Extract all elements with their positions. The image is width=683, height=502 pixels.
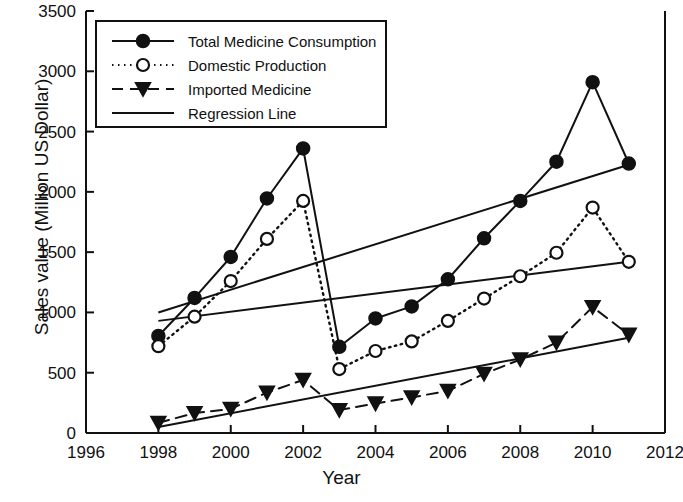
data-point-filled-triangle <box>621 328 636 342</box>
x-tick-label: 2012 <box>646 443 683 462</box>
data-point-filled-triangle <box>259 386 274 400</box>
data-point-open-circle <box>297 195 309 207</box>
data-point-filled-triangle <box>549 336 564 350</box>
legend-label: Regression Line <box>188 105 296 122</box>
data-point-filled-circle <box>405 300 418 313</box>
series-markers-group <box>151 76 636 430</box>
x-tick-label: 2010 <box>574 443 612 462</box>
data-point-open-circle <box>333 363 345 375</box>
x-tick-label: 2000 <box>212 443 250 462</box>
data-point-filled-triangle <box>404 391 419 405</box>
x-tick-label: 2002 <box>284 443 322 462</box>
data-point-open-circle <box>189 311 201 323</box>
data-point-open-circle <box>587 202 599 214</box>
data-point-filled-circle <box>188 291 201 304</box>
x-axis-ticks: 199619982000200220042006200820102012 <box>67 425 683 462</box>
data-point-open-circle <box>550 247 562 259</box>
data-point-filled-circle <box>224 250 237 263</box>
y-tick-label: 3500 <box>38 2 76 21</box>
data-point-filled-triangle <box>440 384 455 398</box>
data-point-open-circle <box>514 270 526 282</box>
y-tick-label: 0 <box>67 424 76 443</box>
data-point-open-circle <box>478 293 490 305</box>
x-tick-label: 1998 <box>139 443 177 462</box>
x-tick-label: 2008 <box>501 443 539 462</box>
data-point-open-circle <box>137 59 149 71</box>
y-axis-title: Sales value (Million US Dollar) <box>31 47 53 367</box>
data-point-filled-circle <box>550 155 563 168</box>
data-point-open-circle <box>152 340 164 352</box>
x-axis-title: Year <box>0 467 683 489</box>
data-point-open-circle <box>442 315 454 327</box>
regression-line <box>158 165 628 313</box>
legend-item: Domestic Production <box>112 57 326 74</box>
x-tick-label: 2004 <box>357 443 395 462</box>
data-point-open-circle <box>623 256 635 268</box>
data-point-filled-circle <box>622 157 635 170</box>
line-chart-canvas: 0500100015002000250030003500 19961998200… <box>0 0 683 502</box>
regression-lines-group <box>158 165 628 427</box>
legend-label: Total Medicine Consumption <box>188 33 376 50</box>
data-point-filled-triangle <box>368 397 383 411</box>
chart-legend: Total Medicine ConsumptionDomestic Produ… <box>96 21 386 127</box>
x-tick-label: 1996 <box>67 443 105 462</box>
data-point-filled-triangle <box>332 404 347 418</box>
data-point-open-circle <box>225 275 237 287</box>
data-point-open-circle <box>261 233 273 245</box>
data-point-filled-circle <box>333 340 346 353</box>
data-point-open-circle <box>370 345 382 357</box>
data-point-open-circle <box>406 335 418 347</box>
chart-figure: 0500100015002000250030003500 19961998200… <box>0 0 683 502</box>
legend-label: Imported Medicine <box>188 81 311 98</box>
data-point-filled-triangle <box>296 374 311 388</box>
data-point-filled-circle <box>441 273 454 286</box>
data-point-filled-circle <box>137 35 150 48</box>
data-point-filled-circle <box>514 194 527 207</box>
data-point-filled-circle <box>297 142 310 155</box>
data-point-filled-circle <box>260 192 273 205</box>
data-point-filled-circle <box>369 312 382 325</box>
x-tick-label: 2006 <box>429 443 467 462</box>
data-point-filled-triangle <box>151 416 166 430</box>
legend-item: Imported Medicine <box>112 81 311 98</box>
data-point-filled-triangle <box>477 368 492 382</box>
legend-label: Domestic Production <box>188 57 326 74</box>
data-point-filled-circle <box>478 232 491 245</box>
data-point-filled-circle <box>586 76 599 89</box>
